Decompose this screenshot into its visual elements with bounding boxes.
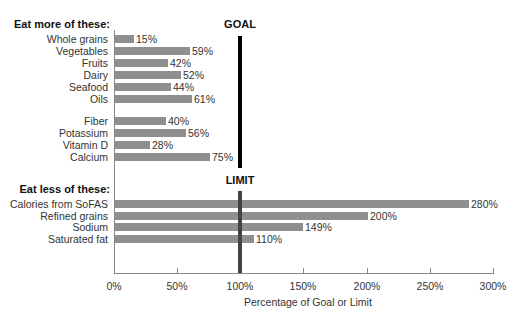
- limit-line: [238, 191, 242, 273]
- bar-value-label: 75%: [212, 151, 233, 163]
- limit-label: LIMIT: [215, 174, 265, 186]
- bar-value-label: 44%: [173, 81, 194, 93]
- row-label: Seafood: [0, 81, 108, 93]
- x-tick-label: 200%: [347, 280, 387, 292]
- bar-value-label: 110%: [256, 233, 282, 245]
- row-label: Fiber: [0, 115, 108, 127]
- row-label: Potassium: [0, 127, 108, 139]
- bar: [115, 71, 181, 79]
- bar: [115, 117, 166, 125]
- x-tick-label: 150%: [283, 280, 323, 292]
- row-label: Whole grains: [0, 33, 108, 45]
- row-label: Saturated fat: [0, 233, 108, 245]
- bar-value-label: 280%: [471, 198, 498, 210]
- bar: [115, 223, 303, 231]
- row-label: Fruits: [0, 57, 108, 69]
- bar-value-label: 42%: [170, 57, 191, 69]
- row-label: Sodium: [0, 221, 108, 233]
- bar: [115, 129, 186, 137]
- goal-label: GOAL: [215, 18, 265, 30]
- goal-line: [238, 36, 242, 168]
- x-tick: [430, 268, 431, 273]
- bar: [115, 83, 171, 91]
- bar: [115, 235, 254, 243]
- x-tick-label: 0%: [94, 280, 134, 292]
- bar: [115, 95, 192, 103]
- x-tick: [303, 268, 304, 273]
- bar-value-label: 149%: [305, 221, 332, 233]
- bar-value-label: 28%: [152, 139, 173, 151]
- row-label: Oils: [0, 93, 108, 105]
- bar-value-label: 15%: [136, 33, 157, 45]
- x-tick-label: 250%: [410, 280, 450, 292]
- bar-value-label: 40%: [168, 115, 189, 127]
- x-tick: [177, 268, 178, 273]
- bar-value-label: 61%: [194, 93, 215, 105]
- bar: [115, 35, 134, 43]
- x-tick-label: 100%: [220, 280, 260, 292]
- row-label: Vitamin D: [0, 139, 108, 151]
- x-tick-label: 300%: [473, 280, 513, 292]
- x-axis-title: Percentage of Goal or Limit: [244, 296, 372, 308]
- eat-less-title: Eat less of these:: [0, 183, 110, 195]
- x-tick-label: 50%: [157, 280, 197, 292]
- bar-value-label: 52%: [183, 69, 204, 81]
- x-axis-line: [114, 273, 494, 274]
- bar: [115, 153, 210, 161]
- bar: [115, 47, 190, 55]
- row-label: Dairy: [0, 69, 108, 81]
- x-tick: [367, 268, 368, 273]
- row-label: Vegetables: [0, 45, 108, 57]
- bar-value-label: 59%: [192, 45, 213, 57]
- bar-value-label: 56%: [188, 127, 209, 139]
- bar: [115, 59, 168, 67]
- row-label: Calories from SoFAS: [0, 198, 108, 210]
- bar: [115, 141, 150, 149]
- eat-more-title: Eat more of these:: [0, 18, 110, 30]
- row-label: Calcium: [0, 151, 108, 163]
- bar: [115, 200, 469, 208]
- bar-value-label: 200%: [370, 210, 397, 222]
- x-tick: [493, 268, 494, 273]
